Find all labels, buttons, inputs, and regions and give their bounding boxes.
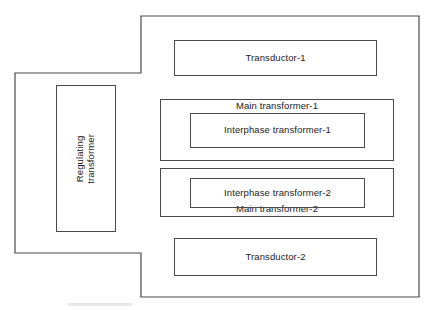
- interphase-transformer-1-label: Interphase transformer-1: [224, 125, 331, 136]
- transductor-2-block: Transductor-2: [174, 238, 377, 276]
- interphase-transformer-2-label: Interphase transformer-2: [224, 188, 331, 199]
- regulating-transformer-label-line1: Regulating: [74, 135, 85, 181]
- transductor-2-label: Transductor-2: [245, 252, 305, 263]
- transductor-1-label: Transductor-1: [245, 53, 305, 64]
- regulating-transformer-label: Regulating transformer: [75, 130, 97, 188]
- regulating-transformer-label-line2: transformer: [85, 134, 96, 184]
- scan-artifact-strip: [68, 303, 132, 306]
- interphase-transformer-2-block: Interphase transformer-2: [190, 178, 365, 208]
- transductor-1-block: Transductor-1: [174, 40, 377, 76]
- main-transformer-1-label: Main transformer-1: [236, 101, 318, 112]
- regulating-transformer-block: Regulating transformer: [56, 85, 116, 232]
- diagram-canvas: Regulating transformer Transductor-1 Mai…: [0, 0, 430, 310]
- interphase-transformer-1-block: Interphase transformer-1: [190, 113, 365, 148]
